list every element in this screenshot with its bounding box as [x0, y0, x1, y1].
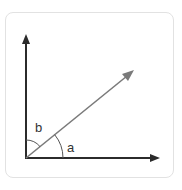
x-axis-arrowhead-icon [150, 154, 160, 162]
angle-b-arc [26, 140, 40, 147]
angle-a-label: a [67, 140, 75, 155]
angle-a-arc [55, 135, 63, 158]
angle-b-label: b [35, 120, 42, 135]
vector-line [26, 76, 127, 158]
y-axis-arrowhead-icon [22, 34, 30, 44]
angle-diagram: a b [0, 0, 182, 190]
